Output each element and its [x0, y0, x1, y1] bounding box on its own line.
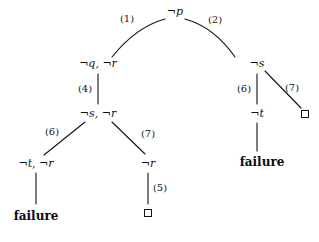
node-right-goal-t: ¬t [250, 108, 264, 119]
node-left-goal-s-r: ¬s, ¬r [80, 108, 116, 119]
edge-label-5: (5) [153, 183, 167, 193]
node-left-goal-r: ¬r [141, 158, 155, 169]
node-left-goal-q-r: ¬q, ¬r [79, 58, 117, 69]
tree-edges-layer [0, 0, 319, 242]
leaf-failure-right: failure [240, 156, 285, 168]
edge-label-4: (4) [78, 84, 92, 94]
edge-label-6-left: (6) [45, 127, 59, 137]
node-root-goal: ¬p [167, 6, 183, 17]
node-right-goal-s: ¬s [250, 58, 265, 69]
edge-label-2: (2) [208, 15, 222, 25]
sld-resolution-tree-diagram: ¬p ¬q, ¬r ¬s, ¬r ¬t, ¬r ¬r ¬s ¬t failure… [0, 0, 319, 242]
edge-label-6-right: (6) [237, 84, 251, 94]
node-left-goal-t-r: ¬t, ¬r [18, 158, 53, 169]
empty-clause-box-left [144, 209, 152, 217]
edge-label-1: (1) [120, 14, 134, 24]
edge-label-7-left: (7) [141, 129, 155, 139]
leaf-failure-left: failure [14, 210, 59, 222]
edge-label-7-right: (7) [285, 83, 299, 93]
edge-root-to-left-goal [112, 19, 165, 57]
empty-clause-box-right [301, 110, 309, 118]
